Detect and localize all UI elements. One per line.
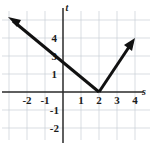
coordinate-plane: s t -2 -1 1 2 3 4 4 3 1 -1 -2 <box>0 0 153 147</box>
x-tick-label: 1 <box>78 94 84 106</box>
y-tick-label: 1 <box>52 68 58 80</box>
x-axis-label: s <box>141 86 146 97</box>
graph-figure: s t -2 -1 1 2 3 4 4 3 1 -1 -2 <box>0 0 153 147</box>
y-axis-label: t <box>66 2 70 13</box>
y-tick-label: 4 <box>52 32 58 44</box>
curve-right-branch <box>99 44 131 92</box>
x-tick-label: 4 <box>132 94 138 106</box>
x-tick-label: -1 <box>40 94 49 106</box>
x-tick-label: -2 <box>22 94 32 106</box>
y-tick-label: -1 <box>50 104 59 116</box>
x-tick-label: 3 <box>114 94 120 106</box>
x-tick-label: 2 <box>96 94 102 106</box>
y-tick-label: -2 <box>50 122 60 134</box>
absolute-value-curve <box>13 21 131 92</box>
right-arrowhead <box>124 38 135 51</box>
